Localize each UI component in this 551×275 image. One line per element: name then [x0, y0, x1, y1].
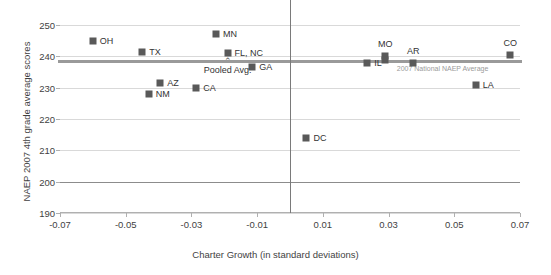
data-point-nm — [145, 90, 152, 97]
data-point-ar — [410, 59, 417, 66]
y-tick-label-190: 190 — [39, 208, 55, 219]
x-tick-label-7: 0.07 — [511, 219, 530, 230]
y-tick-label-200: 200 — [39, 176, 55, 187]
y-tick-label-210: 210 — [39, 145, 55, 156]
data-point-oh — [89, 37, 96, 44]
data-point-ca — [193, 84, 200, 91]
data-label-co: CO — [503, 38, 517, 48]
x-tick-mark-7 — [520, 213, 521, 217]
y-tick-label-230: 230 — [39, 82, 55, 93]
data-label-nm: NM — [156, 89, 170, 99]
y-tick-mark-210 — [56, 150, 60, 151]
x-tick-label-5: 0.03 — [379, 219, 398, 230]
gridline-y-190 — [60, 213, 520, 214]
y-axis-title: NAEP 2007 4th grade average scores — [21, 12, 32, 232]
data-point-il — [364, 59, 371, 66]
data-point-tx — [139, 48, 146, 55]
x-tick-mark-1 — [126, 213, 127, 217]
data-label-oh: OH — [100, 36, 114, 46]
y-tick-mark-230 — [56, 88, 60, 89]
data-label-tx: TX — [149, 47, 161, 57]
x-tick-label-4: 0.01 — [314, 219, 333, 230]
x-tick-label-1: -0.05 — [115, 219, 137, 230]
x-tick-mark-4 — [323, 213, 324, 217]
y-tick-mark-250 — [56, 25, 60, 26]
data-label-ca: CA — [203, 83, 216, 93]
data-label-dc: DC — [313, 133, 326, 143]
data-label-mo: MO — [378, 39, 393, 49]
x-tick-mark-5 — [389, 213, 390, 217]
data-label-fl-nc: FL, NC — [235, 48, 264, 58]
data-point-mn — [213, 31, 220, 38]
data-point-11 — [382, 57, 389, 64]
x-tick-mark-3 — [257, 213, 258, 217]
arrow-up-icon: ⌃ — [204, 58, 252, 65]
annotation-pooled-average: ⌃Pooled Avg. — [204, 58, 252, 75]
y-tick-mark-220 — [56, 119, 60, 120]
data-label-ga: GA — [259, 62, 272, 72]
data-label-az: AZ — [167, 78, 179, 88]
data-label-la: LA — [483, 80, 494, 90]
x-tick-mark-6 — [454, 213, 455, 217]
y-tick-label-220: 220 — [39, 114, 55, 125]
data-label-il: IL — [374, 58, 382, 68]
reference-line-zero_growth — [290, 0, 291, 213]
y-tick-label-240: 240 — [39, 51, 55, 62]
y-tick-mark-200 — [56, 182, 60, 183]
x-axis-title: Charter Growth (in standard deviations) — [0, 249, 551, 260]
x-tick-label-2: -0.03 — [181, 219, 203, 230]
data-point-la — [472, 81, 479, 88]
y-tick-mark-240 — [56, 56, 60, 57]
annotation-label: Pooled Avg. — [204, 65, 252, 75]
data-point-az — [157, 79, 164, 86]
scatter-chart: NAEP 2007 4th grade average scores Chart… — [0, 0, 551, 275]
x-tick-label-0: -0.07 — [49, 219, 71, 230]
x-tick-label-6: 0.05 — [445, 219, 464, 230]
data-label-ar: AR — [407, 46, 420, 56]
x-tick-mark-0 — [60, 213, 61, 217]
y-tick-label-250: 250 — [39, 20, 55, 31]
x-tick-label-3: -0.01 — [246, 219, 268, 230]
data-point-dc — [303, 134, 310, 141]
plot-area: 250240230220210200190-0.07-0.05-0.03-0.0… — [60, 25, 520, 213]
x-tick-mark-2 — [191, 213, 192, 217]
data-point-co — [507, 51, 514, 58]
data-label-mn: MN — [223, 29, 237, 39]
